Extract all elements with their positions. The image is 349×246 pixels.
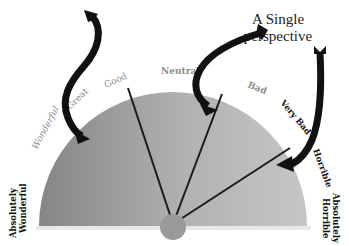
label-good: Good [103,71,129,90]
label-absolutely-horrible-1: Absolutely [331,192,341,244]
title-line-1: A Single [252,11,304,27]
gauge-diagram: Wonderful Great Good Neutral Bad Very Ba… [0,0,349,246]
gauge-dial [39,92,307,226]
label-absolutely-horrible-2: Horrible [321,198,331,239]
label-absolutely-wonderful-2: Wonderful [18,183,28,234]
label-absolutely-wonderful-1: Absolutely [8,187,18,239]
label-very-bad: Very Bad [278,97,313,137]
label-bad: Bad [246,80,269,97]
label-wonderful: Wonderful [30,104,61,151]
label-horrible: Horrible [311,147,334,189]
gauge-hub [160,214,186,240]
